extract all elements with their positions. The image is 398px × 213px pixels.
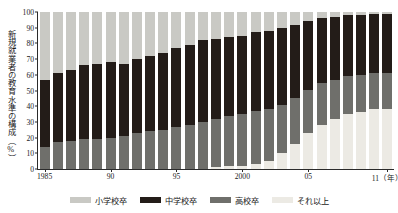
bar-column xyxy=(262,12,275,169)
bar-segment xyxy=(171,12,181,48)
bar-segment xyxy=(237,12,247,36)
bar-segment xyxy=(79,139,89,169)
bar-segment xyxy=(79,12,89,65)
bar-segment xyxy=(303,90,313,132)
bar-column xyxy=(196,12,209,169)
bar-segment xyxy=(369,109,379,169)
bar-column xyxy=(104,12,117,169)
bar-segment xyxy=(198,122,208,169)
stacked-bar xyxy=(330,12,340,169)
bar-segment xyxy=(198,40,208,122)
stacked-bar xyxy=(198,12,208,169)
stacked-bar xyxy=(224,12,234,169)
bar-segment xyxy=(369,14,379,74)
bar-segment xyxy=(303,133,313,169)
bar-segment xyxy=(251,111,261,164)
bar-column xyxy=(64,12,77,169)
x-tick-mark xyxy=(45,169,46,172)
bar-column xyxy=(302,12,315,169)
stacked-bar xyxy=(79,12,89,169)
bar-segment xyxy=(119,136,129,169)
stacked-bar xyxy=(171,12,181,169)
bar-segment xyxy=(330,80,340,119)
bar-column xyxy=(223,12,236,169)
x-tick-label: 2000 xyxy=(235,172,250,181)
legend-swatch xyxy=(140,197,161,203)
bar-segment xyxy=(106,12,116,62)
bar-segment xyxy=(290,144,300,169)
bar-segment xyxy=(343,76,353,114)
bar-segment xyxy=(185,45,195,125)
bar-segment xyxy=(211,119,221,168)
stacked-bar xyxy=(317,12,327,169)
bar-segment xyxy=(264,109,274,161)
stacked-bar xyxy=(145,12,155,169)
legend-item: 小学校卒 xyxy=(70,194,127,206)
bar-segment xyxy=(92,12,102,64)
bar-segment xyxy=(106,62,116,137)
bar-segment xyxy=(145,56,155,131)
bar-series-group xyxy=(38,12,394,169)
bar-segment xyxy=(224,116,234,166)
bar-column xyxy=(315,12,328,169)
bar-segment xyxy=(369,73,379,109)
bar-segment xyxy=(264,31,274,110)
bar-segment xyxy=(211,39,221,119)
bar-column xyxy=(355,12,368,169)
bar-column xyxy=(130,12,143,169)
bar-segment xyxy=(290,12,300,25)
bar-segment xyxy=(185,12,195,45)
stacked-bar xyxy=(106,12,116,169)
bar-segment xyxy=(119,64,129,136)
x-axis-labels: 1985909520000511（年） xyxy=(38,172,394,186)
stacked-bar xyxy=(382,12,392,169)
bar-segment xyxy=(106,138,116,169)
bar-segment xyxy=(171,48,181,127)
bar-segment xyxy=(158,130,168,169)
bar-column xyxy=(275,12,288,169)
bar-column xyxy=(209,12,222,169)
bar-segment xyxy=(356,75,366,113)
stacked-bar xyxy=(303,12,313,169)
bar-segment xyxy=(317,125,327,169)
bar-segment xyxy=(158,12,168,53)
bar-segment xyxy=(53,142,63,169)
bar-segment xyxy=(40,80,50,148)
legend-swatch xyxy=(70,197,91,203)
bar-segment xyxy=(224,12,234,37)
bar-segment xyxy=(211,12,221,39)
x-tick-mark xyxy=(111,169,112,172)
bar-segment xyxy=(303,12,313,21)
bar-column xyxy=(51,12,64,169)
stacked-bar xyxy=(40,12,50,169)
bar-segment xyxy=(40,12,50,80)
legend-item: 中学校卒 xyxy=(140,194,197,206)
bar-segment xyxy=(92,139,102,169)
x-tick-mark xyxy=(387,169,388,172)
bar-segment xyxy=(132,133,142,169)
x-axis-line xyxy=(37,169,394,170)
bar-segment xyxy=(185,125,195,169)
stacked-bar xyxy=(251,12,261,169)
bar-segment xyxy=(356,112,366,169)
bar-segment xyxy=(66,70,76,141)
bar-segment xyxy=(343,114,353,169)
legend-item: 高校卒 xyxy=(210,194,259,206)
bar-segment xyxy=(330,119,340,169)
bar-column xyxy=(78,12,91,169)
bar-segment xyxy=(251,32,261,111)
bar-column xyxy=(381,12,394,169)
x-tick-label: 90 xyxy=(107,172,115,181)
bar-segment xyxy=(264,161,274,169)
bar-segment xyxy=(198,12,208,40)
bar-segment xyxy=(145,12,155,56)
stacked-bar xyxy=(343,12,353,169)
bar-segment xyxy=(132,12,142,59)
bar-segment xyxy=(211,167,221,169)
stacked-bar xyxy=(185,12,195,169)
x-tick-label: 05 xyxy=(304,172,312,181)
legend-label: 中学校卒 xyxy=(165,194,197,206)
stacked-bar xyxy=(211,12,221,169)
bar-segment xyxy=(277,105,287,154)
bar-segment xyxy=(66,12,76,70)
